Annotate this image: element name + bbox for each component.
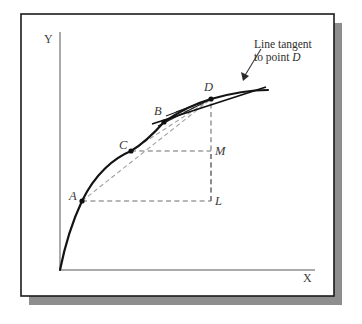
tangent-annotation-line2-prefix: to point <box>254 51 292 63</box>
point-marker-b <box>161 119 166 124</box>
tangent-annotation-line1: Line tangent <box>254 38 312 51</box>
point-label-c: C <box>119 139 127 152</box>
y-axis-label: Y <box>44 33 53 45</box>
point-label-d: D <box>204 81 213 94</box>
point-label-m: M <box>215 145 225 158</box>
point-label-l: L <box>215 195 222 208</box>
tangent-annotation: Line tangent to point D <box>254 38 312 63</box>
point-label-a: A <box>69 190 77 203</box>
point-marker-d <box>208 96 213 101</box>
x-axis-label: X <box>303 272 312 284</box>
point-label-b: B <box>154 105 162 118</box>
figure-container: Y X A C B D M L Line tangent to point D <box>0 0 362 324</box>
tangent-annotation-line2: to point D <box>254 51 312 64</box>
tangent-annotation-point: D <box>292 51 300 63</box>
point-marker-a <box>79 198 84 203</box>
point-marker-c <box>128 148 133 153</box>
